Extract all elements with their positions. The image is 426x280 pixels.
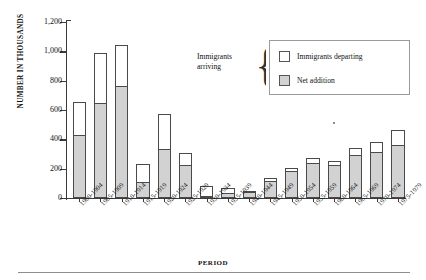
legend-caption: Immigrants arriving [197, 52, 253, 71]
y-axis-title: NUMBER IN THOUSANDS [17, 1, 25, 121]
bar [94, 53, 107, 198]
y-tick-label: 1,200 [44, 18, 62, 26]
bar [73, 102, 86, 198]
legend-item-departing: Immigrants departing [279, 49, 363, 63]
legend-item-net-addition: Net addition [279, 73, 335, 87]
stray-speck [333, 122, 335, 124]
y-tick-label: 1,000 [44, 47, 62, 55]
legend-box: Immigrants departing Net addition [269, 40, 410, 95]
immigration-bar-chart-figure: NUMBER IN THOUSANDS 02004006008001,0001,… [0, 0, 426, 280]
bar [115, 45, 128, 198]
legend-brace-icon: { [255, 41, 266, 95]
legend-swatch-net-addition-icon [279, 75, 290, 86]
x-axis-title: PERIOD [0, 259, 426, 267]
bottom-divider [18, 272, 410, 273]
legend-label-departing: Immigrants departing [297, 52, 363, 61]
y-tick-label: 400 [50, 135, 62, 143]
y-tick-label: 200 [50, 165, 62, 173]
y-axis-top-cap [66, 20, 71, 21]
y-tick-label: 800 [50, 77, 62, 85]
legend-label-net-addition: Net addition [297, 76, 335, 85]
y-tick-label: 600 [50, 106, 62, 114]
bar-net-addition-segment [74, 135, 85, 197]
legend-swatch-departing-icon [279, 51, 290, 62]
legend: Immigrants arriving { Immigrants departi… [197, 40, 412, 98]
y-tick-label: 0 [58, 194, 62, 202]
bar-net-addition-segment [116, 86, 127, 197]
